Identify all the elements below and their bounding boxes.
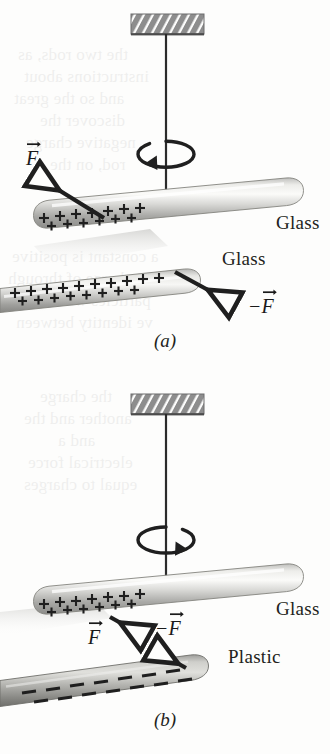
panel-b: Glass Plastic F −F (b) <box>0 380 330 754</box>
physics-figure-electrostatic-forces: the two rods, asinstructions aboutand so… <box>0 0 330 754</box>
label-glass-held-a: Glass <box>222 248 266 270</box>
force-label-minus-F-a: −F <box>248 296 274 316</box>
panel-a-caption: (a) <box>0 330 330 352</box>
panel-a: Glass Glass F −F (a) <box>0 0 330 380</box>
force-label-F-a: F <box>26 148 38 168</box>
label-glass-suspended-b: Glass <box>276 598 320 620</box>
force-label-F-b: F <box>88 627 100 647</box>
ceiling-support <box>131 14 204 35</box>
panel-b-caption: (b) <box>0 709 330 731</box>
panel-b-artwork <box>0 380 330 754</box>
label-glass-suspended-a: Glass <box>276 212 320 234</box>
force-arrow-suspended <box>110 617 144 636</box>
label-plastic-held-b: Plastic <box>228 646 281 668</box>
suspended-glass-rod <box>34 178 304 228</box>
suspended-glass-rod <box>34 564 304 614</box>
force-label-minus-F-b: −F <box>155 618 181 638</box>
panel-a-artwork <box>0 0 330 380</box>
ceiling-support <box>131 394 204 415</box>
